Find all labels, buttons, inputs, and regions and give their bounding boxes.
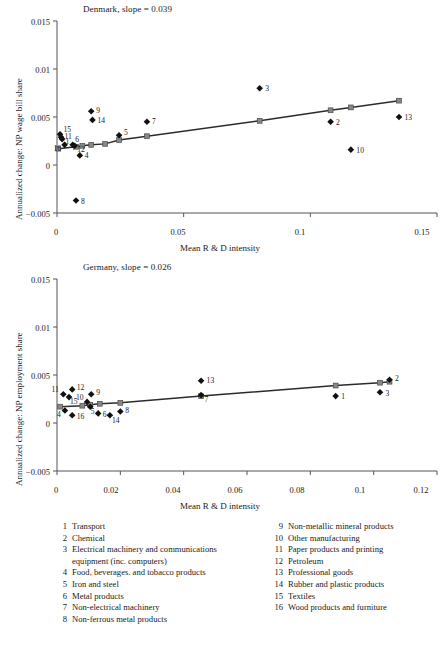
legend-item-15: 15Textiles — [268, 591, 446, 603]
data-point-label: 12 — [77, 383, 85, 392]
diamond-marker-icon — [256, 85, 263, 92]
data-point-14: 14 — [107, 412, 120, 425]
legend-item-11: 11Paper products and printing — [268, 544, 446, 556]
legend-item-number: 1 — [52, 521, 72, 533]
data-point-label: 16 — [54, 144, 62, 153]
data-point-label: 4 — [57, 410, 61, 419]
data-point-label: 8 — [81, 197, 85, 206]
legend-item-number: 11 — [268, 544, 288, 556]
legend-item-label: Rubber and plastic products — [288, 579, 446, 591]
diamond-marker-icon — [332, 393, 339, 400]
data-point-16: 16 — [69, 412, 85, 421]
data-point-9: 9 — [88, 106, 100, 115]
data-point-label: 9 — [96, 388, 100, 397]
legend-item-number: 7 — [52, 602, 72, 614]
data-point-label: 3 — [265, 84, 269, 93]
legend-item-12: 12Petroleum — [268, 556, 446, 568]
legend-item-10: 10Other manufacturing — [268, 533, 446, 545]
legend-item-9: 9Non-metallic mineral products — [268, 521, 446, 533]
data-point-2: 2 — [327, 118, 340, 127]
diamond-marker-icon — [95, 410, 102, 417]
data-point-13: 13 — [198, 376, 215, 385]
fit-line-node — [89, 142, 94, 147]
legend-column-right: 9Non-metallic mineral products10Other ma… — [268, 521, 446, 614]
data-point-11: 11 — [52, 385, 67, 398]
legend-item-number: 12 — [268, 556, 288, 568]
chart-panel-germany: Germany, slope = 0.026 Annualized change… — [0, 258, 446, 516]
data-point-label: 4 — [85, 151, 89, 160]
data-point-8: 8 — [73, 197, 85, 206]
legend-item-number: 13 — [268, 567, 288, 579]
data-point-label: 14 — [97, 116, 105, 125]
legend-item-label: Other manufacturing — [288, 533, 446, 545]
data-point-label: 10 — [76, 393, 84, 402]
legend-item-8: 8Non-ferrous metal products — [52, 614, 247, 626]
fit-line-node — [328, 108, 333, 113]
fit-line — [60, 382, 389, 407]
legend-item-number: 9 — [268, 521, 288, 533]
legend-item-14: 14Rubber and plastic products — [268, 579, 446, 591]
figure-scatter-panels: Denmark, slope = 0.039 Annualized change… — [0, 0, 446, 649]
legend-item-label: Non-ferrous metal products — [72, 614, 247, 626]
data-point-label: 2 — [336, 118, 340, 127]
diamond-marker-icon — [89, 117, 96, 124]
data-point-label: 13 — [405, 113, 413, 122]
data-point-label: 10 — [356, 146, 364, 155]
legend-item-4: 4Food, beverages. and tobacco products — [52, 567, 247, 579]
legend-item-16: 16Wood products and furniture — [268, 602, 446, 614]
legend-item-label: Paper products and printing — [288, 544, 446, 556]
data-point-label: 7 — [152, 117, 156, 126]
fit-line-node — [80, 403, 85, 408]
fit-line-node — [145, 134, 150, 139]
data-point-12: 12 — [69, 383, 85, 392]
legend-item-1: 1Transport — [52, 521, 247, 533]
diamond-marker-icon — [327, 119, 334, 126]
fit-line-node — [97, 401, 102, 406]
data-point-2: 2 — [386, 374, 399, 383]
data-point-5: 5 — [116, 128, 128, 138]
diamond-marker-icon — [377, 389, 384, 396]
legend-item-2: 2Chemical — [52, 533, 247, 545]
data-point-label: 9 — [96, 106, 100, 115]
data-point-3: 3 — [256, 84, 269, 93]
data-point-label: 13 — [207, 376, 215, 385]
data-point-7: 7 — [144, 117, 156, 126]
data-point-13: 13 — [396, 113, 413, 122]
fit-line-node — [257, 118, 262, 123]
legend-item-number: 10 — [268, 533, 288, 545]
fit-line-node — [348, 105, 353, 110]
diamond-marker-icon — [117, 408, 124, 415]
diamond-marker-icon — [69, 412, 76, 419]
legend-item-number: 2 — [52, 533, 72, 545]
legend-industry-codes: 1Transport2Chemical3Electrical machinery… — [0, 521, 446, 649]
legend-item-label: Wood products and furniture — [288, 602, 446, 614]
plot-area-denmark: 15111166124891457321013 — [0, 0, 446, 258]
diamond-marker-icon — [88, 391, 95, 398]
data-point-label: 5 — [124, 128, 128, 137]
legend-item-7: 7Non-electrical machinery — [52, 602, 247, 614]
diamond-marker-icon — [69, 386, 76, 393]
data-point-label: 14 — [112, 416, 120, 425]
data-point-label: 8 — [125, 406, 129, 415]
data-point-label: 16 — [77, 412, 85, 421]
fit-line-node — [333, 383, 338, 388]
diamond-marker-icon — [396, 114, 403, 121]
legend-item-label: Non-metallic mineral products — [288, 521, 446, 533]
fit-line-node — [103, 141, 108, 146]
legend-item-label: Textiles — [288, 591, 446, 603]
data-point-label: 5 — [91, 407, 95, 416]
fit-line-node — [118, 400, 123, 405]
fit-line — [58, 101, 399, 149]
legend-item-label: Food, beverages. and tobacco products — [72, 567, 247, 579]
legend-item-number: 6 — [52, 591, 72, 603]
diamond-marker-icon — [348, 146, 355, 153]
legend-item-13: 13Professional goods — [268, 567, 446, 579]
data-point-10: 10 — [348, 146, 365, 155]
legend-item-label-continued: equipment (inc. computers) — [52, 556, 247, 568]
legend-item-number: 5 — [52, 579, 72, 591]
data-point-label: 1 — [341, 392, 345, 401]
legend-column-left: 1Transport2Chemical3Electrical machinery… — [52, 521, 247, 625]
fit-line-node — [397, 98, 402, 103]
plot-area-germany: 11121541610956148137132 — [0, 258, 446, 516]
data-point-1: 1 — [332, 392, 345, 401]
